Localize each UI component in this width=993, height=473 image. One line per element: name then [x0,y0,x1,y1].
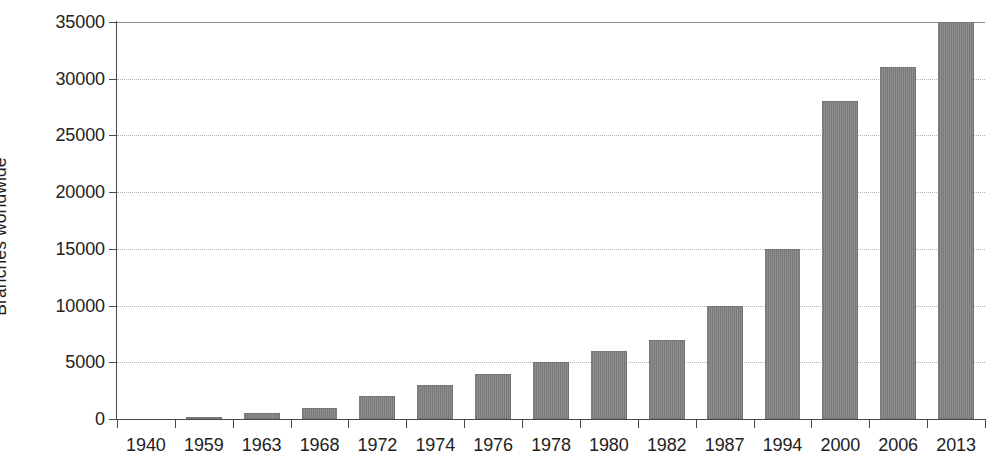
bar [475,374,511,419]
x-axis-tick [406,419,407,428]
bar [707,306,743,419]
bar [822,101,858,419]
y-axis-tick-label: 30000 [55,68,105,89]
y-axis-tick [109,192,117,193]
x-axis-tick [638,419,639,428]
x-axis-tick-label: 1987 [705,435,745,456]
x-axis-tick [464,419,465,428]
plot-area: 05000100001500020000250003000035000 [117,22,985,419]
x-axis-tick [175,419,176,428]
x-axis-tick-label: 1976 [473,435,513,456]
x-axis-tick [927,419,928,428]
x-axis-tick [869,419,870,428]
bar [765,249,801,419]
x-axis-tick-label: 2013 [936,435,976,456]
x-axis-labels-group: 1940195919631968197219741976197819801982… [117,435,985,465]
plot-area-wrapper: 05000100001500020000250003000035000 [117,22,985,419]
bar [302,408,338,419]
x-axis-tick [522,419,523,428]
y-axis-tick [109,135,117,136]
y-axis-tick [109,249,117,250]
y-axis-tick [109,79,117,80]
x-axis-tick [985,419,986,428]
x-axis-tick-label: 2000 [821,435,861,456]
x-axis-tick [117,419,118,428]
y-axis-tick-label: 5000 [65,352,105,373]
gridline [117,419,985,420]
bar-chart: Branches worldwide 050001000015000200002… [0,0,993,473]
x-axis-tick [233,419,234,428]
y-axis-tick [109,306,117,307]
x-axis-tick [754,419,755,428]
x-axis-tick-label: 1959 [184,435,224,456]
y-axis-tick-label: 10000 [55,295,105,316]
y-axis-tick [109,419,117,420]
x-axis-tick-label: 1972 [358,435,398,456]
x-axis-tick-label: 1974 [415,435,455,456]
y-axis-tick-label: 20000 [55,182,105,203]
x-axis-tick [291,419,292,428]
x-axis-tick-label: 1968 [300,435,340,456]
y-axis-tick-label: 25000 [55,125,105,146]
bar [880,67,916,419]
y-axis-tick-label: 15000 [55,238,105,259]
x-axis-tick-label: 1963 [242,435,282,456]
bar [359,396,395,419]
y-axis-tick-label: 35000 [55,12,105,33]
x-axis-tick [696,419,697,428]
bar [591,351,627,419]
x-axis-tick-label: 1940 [126,435,166,456]
x-axis-tick-label: 2006 [878,435,918,456]
x-axis-tick-label: 1980 [589,435,629,456]
y-axis-tick-label: 0 [95,409,105,430]
bar [186,417,222,419]
x-axis-tick [348,419,349,428]
x-axis-tick [811,419,812,428]
bars-group [117,22,985,419]
bar [649,340,685,419]
x-axis-tick [580,419,581,428]
x-axis-tick-label: 1978 [531,435,571,456]
y-axis-tick [109,22,117,23]
x-axis-tick-label: 1994 [763,435,803,456]
y-axis-title: Branches worldwide [0,0,44,473]
bar [417,385,453,419]
y-axis-tick [109,362,117,363]
bar [938,22,974,419]
bar [244,413,280,419]
bar [533,362,569,419]
x-axis-tick-label: 1982 [647,435,687,456]
